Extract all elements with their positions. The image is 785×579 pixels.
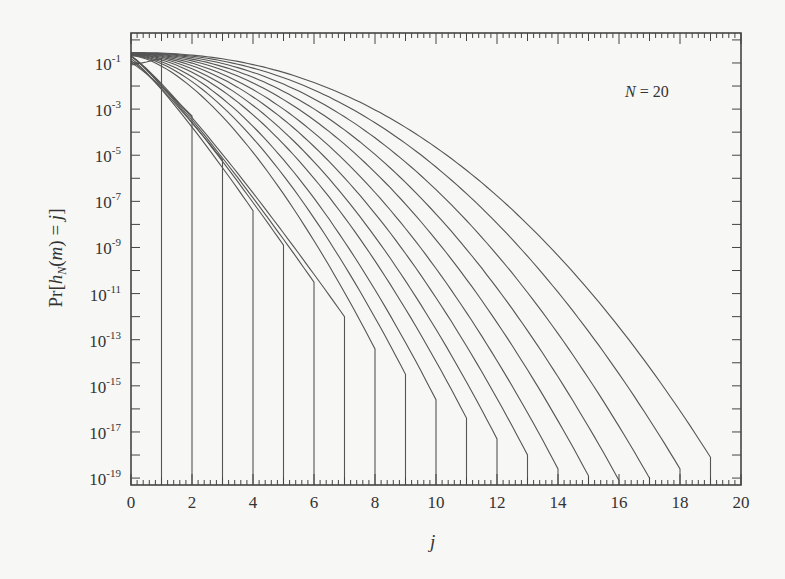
y-tick-label: 10-11 [90, 283, 121, 305]
x-tick-label: 10 [428, 493, 445, 512]
x-tick-label: 2 [188, 493, 197, 512]
y-tick-labels: 10-110-310-510-710-910-1110-1310-1510-17… [89, 52, 121, 489]
curve-m-3 [131, 61, 223, 485]
x-tick-label: 12 [489, 493, 506, 512]
x-tick-label: 18 [672, 493, 689, 512]
curve-m-11 [131, 55, 467, 485]
curve-m-5 [131, 57, 284, 486]
curve-m-15 [131, 54, 589, 485]
x-tick-label: 0 [127, 493, 136, 512]
curve-m-7 [131, 56, 345, 485]
y-tick-label: 10-7 [95, 190, 122, 212]
x-axis-label: j [427, 531, 435, 552]
y-axis-label: Pr[hN(m) = j] [45, 209, 69, 308]
y-tick-label: 10-9 [95, 236, 122, 258]
x-tick-label: 16 [611, 493, 628, 512]
curve-m-1 [131, 58, 162, 485]
y-tick-label: 10-5 [95, 144, 122, 166]
x-tick-label: 8 [371, 493, 380, 512]
y-tick-label: 10-1 [95, 52, 121, 74]
y-tick-label: 10-15 [89, 375, 121, 397]
y-tick-label: 10-3 [95, 98, 122, 120]
annotation-n: N = 20 [624, 83, 669, 100]
x-tick-label: 14 [550, 493, 568, 512]
x-tick-label: 6 [310, 493, 319, 512]
curve-m-9 [131, 55, 406, 485]
x-tick-labels: 02468101214161820 [127, 493, 750, 512]
y-tick-label: 10-17 [89, 421, 121, 443]
y-tick-label: 10-19 [89, 467, 121, 489]
svg-text:Pr[hN(m) = j]: Pr[hN(m) = j] [45, 209, 69, 308]
data-curves [131, 53, 711, 485]
y-tick-label: 10-13 [89, 329, 121, 351]
x-tick-label: 4 [249, 493, 258, 512]
chart: 10-110-310-510-710-910-1110-1310-1510-17… [0, 0, 785, 579]
x-tick-label: 20 [733, 493, 750, 512]
curve-m-19 [131, 53, 711, 485]
